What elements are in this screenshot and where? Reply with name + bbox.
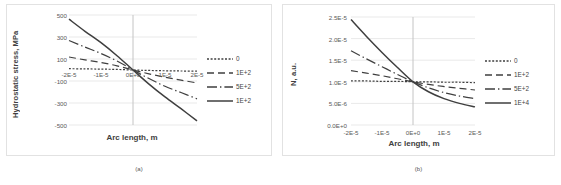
legend-label: 1E+2 bbox=[236, 69, 251, 77]
x-tick-labels-b: -2E-5 -1E-5 0E+0 1E-5 2E-5 bbox=[351, 129, 475, 139]
legend-item[interactable]: 1E+2 bbox=[207, 94, 251, 108]
y-axis-title-a: Hydrostatic stress, MPa bbox=[11, 19, 21, 129]
x-axis-title-a: Arc length, m bbox=[47, 133, 217, 142]
x-tick-label: -2E-5 bbox=[343, 129, 358, 136]
legend-a: 0 1E+2 5E+2 1E+2 bbox=[207, 52, 251, 108]
y-tick-label: 2.0E-5 bbox=[329, 35, 347, 42]
legend-label: 1E+2 bbox=[514, 71, 529, 79]
x-tick-label: 0E+0 bbox=[406, 129, 421, 136]
x-tick-label: -1E-5 bbox=[374, 129, 389, 136]
y-tick-label: 1.5E-5 bbox=[329, 57, 347, 64]
legend-item[interactable]: 0 bbox=[207, 52, 251, 66]
y-tick-label: 5.0E-6 bbox=[329, 100, 347, 107]
chart-panel-a: Hydrostatic stress, MPa 500 300 100 -100… bbox=[6, 4, 272, 156]
y-tick-label: 100 bbox=[57, 56, 67, 63]
legend-item[interactable]: 1E+2 bbox=[207, 66, 251, 80]
legend-label: 0 bbox=[236, 55, 240, 63]
legend-swatch-dashed bbox=[485, 71, 511, 79]
series-canvas-b bbox=[351, 17, 475, 125]
y-tick-label: 300 bbox=[57, 34, 67, 41]
subcaption-a: (a) bbox=[6, 166, 272, 172]
plot-area-a bbox=[69, 15, 197, 125]
legend-swatch-dash-dot bbox=[485, 85, 511, 93]
x-tick-labels-a: -2E-5 -1E-5 0E+0 1E-5 2E-5 bbox=[69, 71, 197, 81]
legend-swatch-dashed bbox=[207, 69, 233, 77]
y-tick-label: -300 bbox=[55, 100, 67, 107]
legend-label: 5E+2 bbox=[514, 85, 529, 93]
y-tick-label: 500 bbox=[57, 12, 67, 19]
legend-item[interactable]: 5E+2 bbox=[485, 82, 529, 96]
x-tick-label: 1E-5 bbox=[437, 129, 450, 136]
legend-item[interactable]: 1E+4 bbox=[485, 96, 529, 110]
y-tick-label: -100 bbox=[55, 78, 67, 85]
chart-panel-b: N, a.u. 2.5E-5 2.0E-5 1.5E-5 1.0E-5 5.0E… bbox=[282, 4, 555, 156]
legend-item[interactable]: 0 bbox=[485, 54, 529, 68]
legend-label: 1E+4 bbox=[514, 99, 529, 107]
legend-swatch-dash-dot bbox=[207, 83, 233, 91]
x-tick-label: -2E-5 bbox=[61, 71, 76, 78]
legend-b: 0 1E+2 5E+2 1E+4 bbox=[485, 54, 529, 110]
legend-item[interactable]: 5E+2 bbox=[207, 80, 251, 94]
legend-swatch-dotted bbox=[485, 57, 511, 65]
legend-swatch-solid bbox=[485, 99, 511, 107]
x-axis-title-b: Arc length, m bbox=[329, 139, 499, 148]
x-tick-label: 0E+0 bbox=[126, 71, 141, 78]
legend-label: 5E+2 bbox=[236, 83, 251, 91]
y-tick-label: 1.0E-5 bbox=[329, 78, 347, 85]
y-tick-label: 0.0E+0 bbox=[327, 122, 347, 129]
x-tick-label: 2E-5 bbox=[468, 129, 481, 136]
legend-item[interactable]: 1E+2 bbox=[485, 68, 529, 82]
y-tick-label: 2.5E-5 bbox=[329, 14, 347, 21]
x-tick-label: -1E-5 bbox=[93, 71, 108, 78]
plot-area-b bbox=[351, 17, 475, 125]
legend-swatch-dotted bbox=[207, 55, 233, 63]
figure-container: Hydrostatic stress, MPa 500 300 100 -100… bbox=[0, 0, 561, 185]
legend-swatch-solid bbox=[207, 97, 233, 105]
y-tick-labels-b: 2.5E-5 2.0E-5 1.5E-5 1.0E-5 5.0E-6 0.0E+… bbox=[309, 17, 347, 125]
legend-label: 1E+2 bbox=[236, 97, 251, 105]
y-tick-label: -500 bbox=[55, 122, 67, 129]
y-axis-title-b: N, a.u. bbox=[289, 47, 299, 101]
legend-label: 0 bbox=[514, 57, 518, 65]
y-tick-labels-a: 500 300 100 -100 -300 -500 bbox=[41, 15, 67, 125]
x-tick-label: 2E-5 bbox=[190, 71, 203, 78]
x-tick-label: 1E-5 bbox=[158, 71, 171, 78]
subcaption-b: (b) bbox=[282, 166, 555, 172]
series-canvas-a bbox=[69, 15, 197, 125]
